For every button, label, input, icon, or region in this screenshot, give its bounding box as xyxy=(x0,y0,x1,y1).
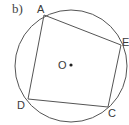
part-label: b) xyxy=(12,1,23,16)
vertex-label-c: C xyxy=(108,107,116,119)
vertex-label-a: A xyxy=(37,3,45,15)
side-ae xyxy=(44,15,121,45)
center-label: O xyxy=(58,59,67,71)
center-point xyxy=(69,63,72,66)
vertex-label-e: E xyxy=(122,36,129,48)
circle-diagram: b) O A E C D xyxy=(0,0,129,125)
vertex-label-d: D xyxy=(17,99,25,111)
side-cd xyxy=(28,99,108,107)
side-ec xyxy=(108,45,121,107)
